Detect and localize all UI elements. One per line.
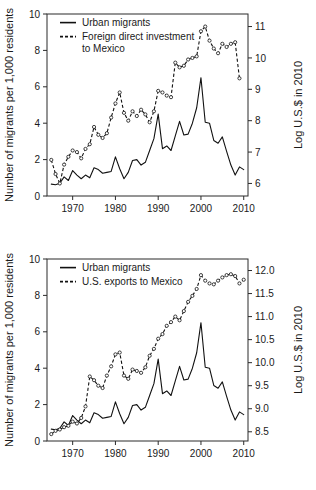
right-tick-label: 11: [255, 21, 266, 32]
left-tick-label: 10: [29, 254, 41, 265]
legend: Urban migrantsU.S. exports to Mexico: [60, 262, 183, 287]
data-point-marker: [110, 365, 113, 368]
series-line-0: [51, 323, 243, 430]
legend: Urban migrantsForeign direct investmentt…: [60, 17, 194, 54]
data-point-marker: [161, 91, 164, 94]
right-tick-label: 10.0: [255, 357, 275, 368]
right-tick-label: 11.5: [255, 288, 274, 299]
data-point-marker: [242, 278, 245, 281]
legend-label-0: Urban migrants: [82, 262, 150, 273]
right-tick-label: 9.5: [255, 380, 269, 391]
data-point-marker: [122, 111, 125, 114]
right-tick-label: 8.5: [255, 426, 269, 437]
right-tick-label: 9.0: [255, 403, 269, 414]
data-point-marker: [80, 157, 83, 160]
data-point-marker: [135, 114, 138, 117]
data-point-marker: [54, 172, 57, 175]
data-point-marker: [144, 113, 147, 116]
left-tick-label: 0: [34, 191, 40, 202]
data-point-marker: [157, 89, 160, 92]
data-point-marker: [229, 42, 232, 45]
data-point-marker: [139, 108, 142, 111]
series-markers-1: [50, 273, 246, 436]
x-tick-label: 1990: [147, 448, 170, 459]
data-point-marker: [216, 279, 219, 282]
data-point-marker: [225, 274, 228, 277]
data-point-marker: [71, 149, 74, 152]
data-point-marker: [148, 354, 151, 357]
x-tick-label: 2000: [190, 203, 213, 214]
data-point-marker: [144, 366, 147, 369]
chart-svg-panel-1: 02468106789101119701980199020002010Numbe…: [0, 0, 316, 245]
data-point-marker: [199, 274, 202, 277]
left-tick-label: 2: [34, 154, 40, 165]
y-axis-title: Number of migrants per 1,000 residents: [3, 253, 15, 447]
data-point-marker: [97, 133, 100, 136]
data-point-marker: [169, 321, 172, 324]
data-point-marker: [212, 47, 215, 50]
chart-svg-panel-2: 02468108.59.09.510.010.511.011.512.01970…: [0, 245, 316, 490]
series-line-0: [51, 78, 243, 185]
data-point-marker: [88, 143, 91, 146]
data-point-marker: [92, 379, 95, 382]
data-point-marker: [178, 66, 181, 69]
data-point-marker: [229, 273, 232, 276]
data-point-marker: [187, 58, 190, 61]
data-point-marker: [187, 300, 190, 303]
data-point-marker: [152, 110, 155, 113]
data-point-marker: [118, 351, 121, 354]
data-point-marker: [221, 42, 224, 45]
legend-label-0: Urban migrants: [82, 17, 150, 28]
data-point-marker: [234, 274, 237, 277]
chart-panel-fdi: 02468106789101119701980199020002010Numbe…: [0, 0, 316, 245]
right-tick-label: 11.0: [255, 311, 274, 322]
x-axis: 19701980199020002010: [62, 196, 256, 214]
x-tick-label: 2010: [233, 448, 256, 459]
data-point-marker: [221, 276, 224, 279]
left-tick-label: 4: [34, 118, 40, 129]
left-tick-label: 6: [34, 81, 40, 92]
data-point-marker: [67, 424, 70, 427]
left-axis: 0246810: [29, 9, 47, 202]
figure-root: 02468106789101119701980199020002010Numbe…: [0, 0, 316, 490]
data-point-marker: [212, 283, 215, 286]
data-point-marker: [67, 155, 70, 158]
series-line-1: [51, 27, 239, 184]
left-axis: 0246810: [29, 254, 47, 447]
data-point-marker: [208, 39, 211, 42]
data-point-marker: [92, 125, 95, 128]
right-tick-label: 6: [255, 178, 261, 189]
right-tick-label: 7: [255, 147, 261, 158]
data-point-marker: [161, 333, 164, 336]
data-point-marker: [131, 110, 134, 113]
data-point-marker: [84, 405, 87, 408]
data-point-marker: [50, 432, 53, 435]
data-point-marker: [118, 91, 121, 94]
legend-label-1: U.S. exports to Mexico: [82, 276, 183, 287]
data-point-marker: [182, 309, 185, 312]
data-point-marker: [75, 422, 78, 425]
left-tick-label: 4: [34, 363, 40, 374]
data-point-marker: [131, 368, 134, 371]
left-tick-label: 0: [34, 436, 40, 447]
data-point-marker: [195, 55, 198, 58]
x-tick-label: 2010: [233, 203, 256, 214]
data-point-marker: [191, 294, 194, 297]
x-axis: 19701980199020002010: [62, 441, 256, 459]
data-point-marker: [71, 420, 74, 423]
x-tick-label: 1980: [104, 448, 127, 459]
right-tick-label: 12.0: [255, 265, 275, 276]
data-point-marker: [135, 369, 138, 372]
data-point-marker: [174, 61, 177, 64]
data-point-marker: [234, 41, 237, 44]
data-point-marker: [58, 182, 61, 185]
right-tick-label: 10: [255, 53, 267, 64]
data-point-marker: [50, 158, 53, 161]
chart-panel-exports: 02468108.59.09.510.010.511.011.512.01970…: [0, 245, 316, 490]
data-point-marker: [157, 337, 160, 340]
right-axis: 8.59.09.510.010.511.011.512.0: [248, 265, 275, 437]
left-tick-label: 8: [34, 45, 40, 56]
data-point-marker: [165, 94, 168, 97]
data-point-marker: [110, 116, 113, 119]
data-point-marker: [178, 319, 181, 322]
